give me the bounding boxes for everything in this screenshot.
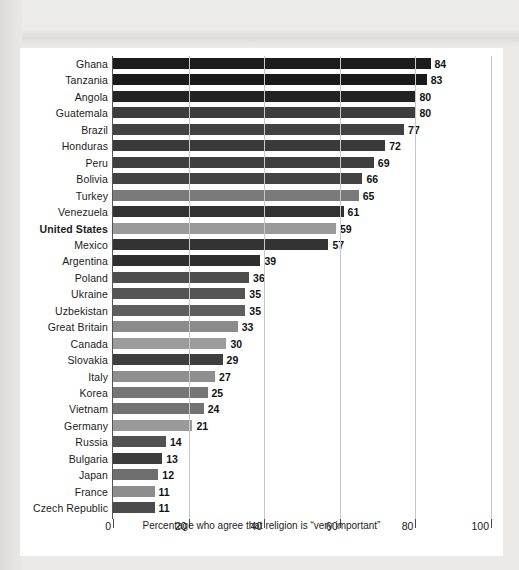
bar	[113, 74, 427, 85]
bar-row: Uzbekistan35	[20, 303, 503, 319]
bar	[113, 436, 166, 447]
category-label: Brazil	[81, 122, 108, 138]
bar-row: Argentina39	[20, 253, 503, 269]
bar-row: Czech Republic11	[20, 500, 503, 516]
category-label: Uzbekistan	[55, 303, 108, 319]
bar-row: Russia14	[20, 434, 503, 450]
bar-value-label: 61	[348, 204, 360, 220]
bar	[113, 338, 226, 349]
bar-row: Italy27	[20, 369, 503, 385]
category-label: Venezuela	[58, 204, 108, 220]
category-label: Germany	[64, 418, 108, 434]
category-label: Mexico	[74, 237, 108, 253]
bar-row: Canada30	[20, 336, 503, 352]
category-label: Turkey	[76, 188, 108, 204]
bar-value-label: 27	[219, 369, 231, 385]
bar-row: Peru69	[20, 155, 503, 171]
category-label: Angola	[75, 89, 108, 105]
bar	[113, 190, 359, 201]
bar-row: Ghana84	[20, 56, 503, 72]
bar	[113, 469, 158, 480]
category-label: Bulgaria	[69, 451, 108, 467]
category-label: Czech Republic	[33, 500, 108, 516]
bar	[113, 305, 245, 316]
bar-value-label: 65	[363, 188, 375, 204]
axis-caption: Percentage who agree that religion is “v…	[20, 520, 503, 531]
bar-row: Japan12	[20, 467, 503, 483]
category-label: France	[75, 484, 108, 500]
bar-value-label: 33	[242, 319, 254, 335]
bar-value-label: 36	[253, 270, 265, 286]
axis-zero-line	[112, 56, 113, 519]
category-label: Honduras	[62, 138, 108, 154]
category-label: Ghana	[76, 56, 108, 72]
bar-row: Angola80	[20, 89, 503, 105]
bar-value-label: 80	[419, 89, 431, 105]
bar-value-label: 83	[431, 72, 443, 88]
gridline	[340, 56, 341, 519]
bar	[113, 371, 215, 382]
bar-row: Brazil77	[20, 122, 503, 138]
bar-value-label: 80	[419, 105, 431, 121]
bar	[113, 453, 162, 464]
bar-row: Germany21	[20, 418, 503, 434]
category-label: Argentina	[62, 253, 108, 269]
bar	[113, 420, 192, 431]
bar	[113, 387, 208, 398]
category-label: Peru	[85, 155, 108, 171]
bar-row: France11	[20, 484, 503, 500]
category-label: Canada	[71, 336, 108, 352]
bar	[113, 157, 374, 168]
bar	[113, 502, 155, 513]
bar-value-label: 29	[227, 352, 239, 368]
bar	[113, 206, 344, 217]
bar-value-label: 66	[366, 171, 378, 187]
bar-value-label: 59	[340, 221, 352, 237]
bar-value-label: 11	[159, 484, 170, 500]
bar-value-label: 13	[166, 451, 178, 467]
bar	[113, 321, 238, 332]
category-label: Poland	[75, 270, 108, 286]
category-label: Guatemala	[56, 105, 108, 121]
category-label: Italy	[88, 369, 108, 385]
bar	[113, 403, 204, 414]
bar	[113, 173, 362, 184]
category-label: Slovakia	[68, 352, 109, 368]
gridline	[189, 56, 190, 519]
bar-value-label: 25	[212, 385, 224, 401]
category-label: Korea	[79, 385, 108, 401]
bar-value-label: 21	[196, 418, 208, 434]
bar-row: Honduras72	[20, 138, 503, 154]
bar-row: Mexico57	[20, 237, 503, 253]
bar	[113, 124, 404, 135]
bar	[113, 272, 249, 283]
bar-value-label: 35	[249, 286, 261, 302]
bar-row: Bolivia66	[20, 171, 503, 187]
bar-value-label: 24	[208, 401, 220, 417]
bar-value-label: 84	[435, 56, 447, 72]
bar-row: Slovakia29	[20, 352, 503, 368]
category-label: Japan	[79, 467, 108, 483]
gridline	[415, 56, 416, 519]
category-label: Bolivia	[76, 171, 108, 187]
gridline	[491, 56, 492, 519]
bar-value-label: 30	[230, 336, 242, 352]
bar-chart: Ghana84Tanzania83Angola80Guatemala80Braz…	[20, 48, 503, 556]
category-label: Russia	[75, 434, 108, 450]
bar-value-label: 72	[389, 138, 401, 154]
bar-value-label: 14	[170, 434, 182, 450]
bar-row: Venezuela61	[20, 204, 503, 220]
bar-row: Great Britain33	[20, 319, 503, 335]
bar-value-label: 57	[332, 237, 344, 253]
bar	[113, 239, 328, 250]
bar	[113, 354, 223, 365]
category-label: Tanzania	[65, 72, 108, 88]
category-label: Ukraine	[71, 286, 108, 302]
bar-row: Bulgaria13	[20, 451, 503, 467]
bar-row: Vietnam24	[20, 401, 503, 417]
gridline	[264, 56, 265, 519]
bar-row: Poland36	[20, 270, 503, 286]
category-label: Vietnam	[69, 401, 108, 417]
bar-value-label: 69	[378, 155, 390, 171]
bar-value-label: 39	[264, 253, 276, 269]
